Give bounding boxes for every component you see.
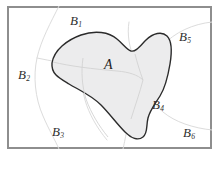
region-label-b4-base: B bbox=[152, 97, 160, 112]
region-label-b1: B1 bbox=[70, 14, 82, 29]
region-label-b5: B5 bbox=[179, 30, 191, 45]
region-label-b1-subscript: 1 bbox=[78, 20, 82, 29]
region-label-b2: B2 bbox=[18, 68, 30, 83]
diagram-canvas bbox=[7, 6, 212, 149]
region-label-b5-subscript: 5 bbox=[187, 36, 191, 45]
region-label-b6: B6 bbox=[183, 126, 195, 141]
region-label-b4: B4 bbox=[152, 98, 164, 113]
region-label-b2-subscript: 2 bbox=[26, 74, 30, 83]
region-label-b1-base: B bbox=[70, 13, 78, 28]
set-a-shape bbox=[52, 32, 171, 139]
region-label-b6-base: B bbox=[183, 125, 191, 140]
set-a-label: A bbox=[104, 58, 113, 72]
region-label-b3-base: B bbox=[52, 124, 60, 139]
region-label-b2-base: B bbox=[18, 67, 26, 82]
region-label-b3-subscript: 3 bbox=[60, 131, 64, 140]
region-label-b5-base: B bbox=[179, 29, 187, 44]
region-label-b4-subscript: 4 bbox=[160, 104, 164, 113]
figure-root: B1 B2 B3 B4 B5 B6 A bbox=[0, 0, 219, 170]
region-label-b3: B3 bbox=[52, 125, 64, 140]
region-label-b6-subscript: 6 bbox=[191, 132, 195, 141]
set-a-outline bbox=[52, 32, 171, 139]
